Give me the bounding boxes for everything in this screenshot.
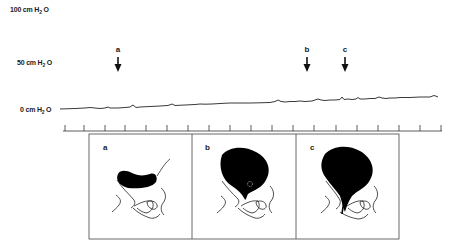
panel-a-bladder-illustration	[112, 159, 170, 218]
chart-canvas	[0, 0, 453, 251]
arrow-c-icon	[342, 57, 349, 72]
pressure-trace	[60, 96, 438, 110]
panel-label-c: c	[310, 143, 314, 152]
arrow-a-icon	[115, 57, 122, 72]
panel-c-bladder-illustration	[321, 147, 378, 219]
panel-label-a: a	[103, 143, 107, 152]
time-axis-ticks	[65, 125, 441, 131]
panel-b-bladder-illustration	[217, 148, 274, 219]
panel-label-b: b	[205, 143, 210, 152]
arrow-b-icon	[304, 57, 311, 72]
